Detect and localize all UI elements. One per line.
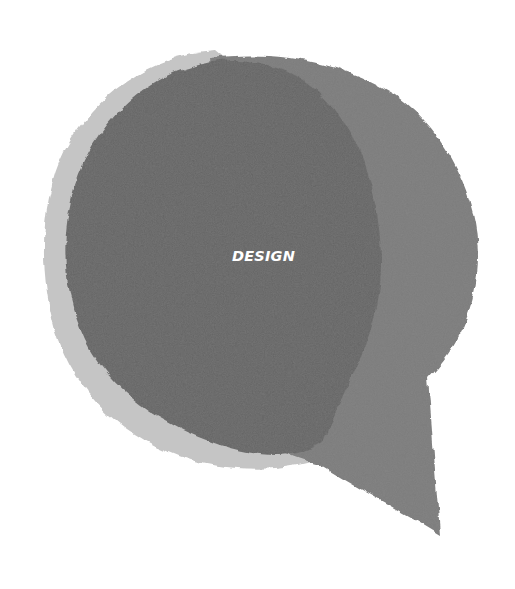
speech-bubble-graphic [0, 0, 515, 589]
speech-bubble-illustration: DESIGN [0, 0, 515, 589]
design-label: DESIGN [232, 248, 295, 264]
